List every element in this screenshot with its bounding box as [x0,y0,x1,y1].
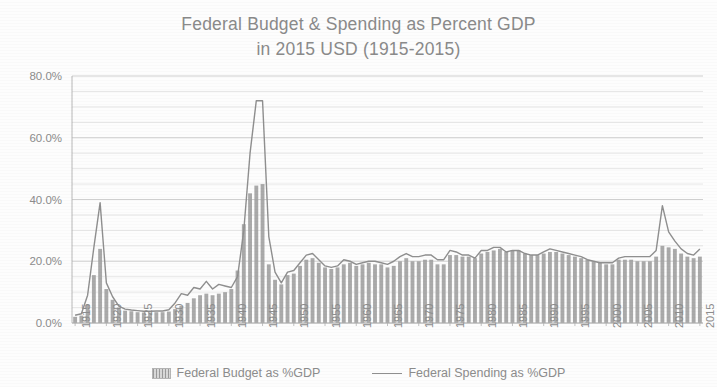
bar [348,263,352,323]
bar [342,264,346,323]
bar [154,312,158,323]
x-axis-tick-label: 1930 [173,304,185,328]
bar [217,294,221,323]
bar [379,264,383,323]
bar [386,267,390,323]
chart-legend: Federal Budget as %GDP Federal Spending … [0,366,717,380]
bar [604,264,608,323]
bar [498,249,502,323]
bar [536,255,540,323]
bar [279,284,283,323]
legend-label-federal-spending: Federal Spending as %GDP [408,366,565,380]
bar [104,289,108,323]
x-axis-tick-label: 1920 [111,304,123,328]
x-axis-tick-label: 2010 [673,304,685,328]
bar [623,260,627,323]
bar [436,264,440,323]
bar [317,263,321,323]
x-axis-tick-label: 1945 [267,304,279,328]
x-axis-tick-label: 1995 [579,304,591,328]
bar [654,257,658,323]
x-axis-tick-label: 2015 [704,304,716,328]
bar [685,257,689,323]
bar [354,266,358,323]
bar-series-federal-budget [73,184,702,323]
y-axis-tick-label: 60.0% [6,132,62,144]
chart-svg [0,0,717,387]
bar [73,317,77,323]
bar [542,254,546,323]
bar [373,264,377,323]
bar [186,303,190,323]
bar [123,311,127,323]
bar [292,274,296,323]
bar [136,312,140,323]
x-axis-tick-label: 1970 [423,304,435,328]
bar [567,255,571,323]
bar [404,258,408,323]
bar [511,250,515,323]
bar [248,193,252,323]
legend-label-federal-budget: Federal Budget as %GDP [177,366,321,380]
bar [229,289,233,323]
bar [254,186,258,323]
bar [698,257,702,323]
y-axis-tick-label: 40.0% [6,194,62,206]
bar [592,261,596,323]
bar [504,252,508,323]
bar [660,246,664,323]
bar [192,298,196,323]
bar [692,258,696,323]
bar [573,257,577,323]
bar [473,258,477,323]
y-axis-tick-label: 0.0% [6,317,62,329]
legend-item-federal-spending: Federal Spending as %GDP [372,366,565,380]
x-axis-tick-label: 1975 [454,304,466,328]
x-axis-tick-label: 2000 [611,304,623,328]
bar [560,254,564,323]
bar [629,260,633,323]
bar [198,295,202,323]
bar [635,261,639,323]
bar [129,311,133,323]
x-axis-tick-label: 1960 [361,304,373,328]
bar [261,184,265,323]
bar [223,292,227,323]
bar [167,312,171,323]
x-axis-tick-label: 2005 [642,304,654,328]
bar [442,264,446,323]
line-swatch-icon [372,373,402,374]
bar [411,261,415,323]
bar [92,275,96,323]
bar [467,257,471,323]
x-axis-tick-label: 1990 [548,304,560,328]
bar [529,255,533,323]
bar [598,263,602,323]
x-axis-tick-label: 1940 [236,304,248,328]
x-axis-tick-label: 1935 [205,304,217,328]
bar [667,247,671,323]
bar [323,267,327,323]
plot-area: 0.0%20.0%40.0%60.0%80.0% 191519201925193… [0,0,717,387]
bar [98,249,102,323]
bar [286,275,290,323]
y-axis-tick-label: 20.0% [6,255,62,267]
bar [417,261,421,323]
bar [448,255,452,323]
bar [161,312,165,323]
x-axis-tick-label: 1925 [142,304,154,328]
x-axis-tick-label: 1980 [486,304,498,328]
x-axis-tick-label: 1965 [392,304,404,328]
x-axis-tick-label: 1915 [80,304,92,328]
y-axis-tick-label: 80.0% [6,70,62,82]
chart-container: Federal Budget & Spending as Percent GDP… [0,0,717,387]
bar [479,254,483,323]
x-axis-tick-label: 1985 [517,304,529,328]
x-axis-tick-label: 1955 [330,304,342,328]
legend-item-federal-budget: Federal Budget as %GDP [152,366,321,380]
bar-swatch-icon [152,368,171,379]
x-axis-tick-label: 1950 [298,304,310,328]
bar [311,258,315,323]
